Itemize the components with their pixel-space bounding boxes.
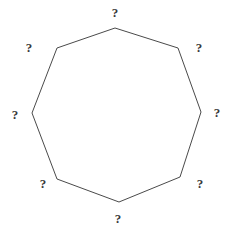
vertex-angle-label-top: ? <box>108 6 122 19</box>
vertex-angle-label-right: ? <box>210 106 224 119</box>
octagon-outline <box>32 28 201 202</box>
octagon-shape <box>0 0 229 234</box>
vertex-angle-label-bottom: ? <box>111 212 125 225</box>
vertex-angle-label-lower-right: ? <box>193 177 207 190</box>
vertex-angle-label-upper-left: ? <box>22 41 36 54</box>
figure-canvas: ???????? <box>0 0 229 234</box>
vertex-angle-label-left: ? <box>8 108 22 121</box>
vertex-angle-label-lower-left: ? <box>36 177 50 190</box>
vertex-angle-label-upper-right: ? <box>192 41 206 54</box>
